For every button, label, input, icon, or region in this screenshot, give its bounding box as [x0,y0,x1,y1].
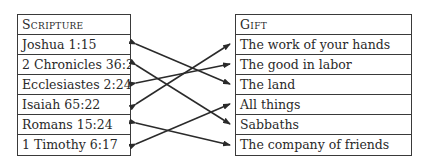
connection-arrows [0,0,427,167]
arrow-romans-friends [136,123,230,145]
arrow-timothy-allthings [136,104,230,144]
arrow-joshua-land [136,44,230,84]
